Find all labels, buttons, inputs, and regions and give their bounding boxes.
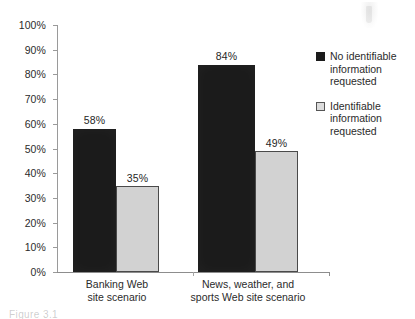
y-axis-line [57,25,58,273]
bar-group2-series2[interactable]: 49% [255,151,298,272]
figure-root: 0% 10% 20% 30% 40% 50% 60% 70% 80% 90% 1… [0,0,415,319]
y-axis-tick: 30% [53,198,57,199]
chart-legend: No identifiable information requested Id… [316,50,415,149]
y-axis-label: 20% [25,217,46,229]
y-axis-label: 70% [25,93,46,105]
y-axis-label: 90% [25,44,46,56]
legend-item-label: No identifiable information requested [330,50,397,88]
bar-group1-series1[interactable]: 58% [73,129,116,272]
legend-item-no-identifiable-information[interactable]: No identifiable information requested [316,50,415,88]
y-axis-label: 80% [25,68,46,80]
y-axis-tick: 80% [53,74,57,75]
bar-group2-series1[interactable]: 84% [198,65,255,273]
x-axis-end-tick [329,272,330,276]
y-axis-tick: 50% [53,149,57,150]
y-axis-tick: 60% [53,124,57,125]
bar-value-label: 84% [216,50,237,62]
scan-artifact-icon [361,2,378,28]
x-axis-category-label-1: Banking Web site scenario [59,278,175,303]
chart-plot-area: 0% 10% 20% 30% 40% 50% 60% 70% 80% 90% 1… [57,25,330,272]
y-axis-tick: 10% [53,247,57,248]
y-axis-label: 0% [31,266,46,278]
legend-item-identifiable-information[interactable]: Identifiable information requested [316,100,415,138]
bar-value-label: 49% [266,137,287,149]
y-axis-label: 10% [25,241,46,253]
legend-light-square-icon [316,102,325,111]
y-axis-tick: 100% [53,25,57,26]
y-axis-tick: 90% [53,50,57,51]
figure-caption: Figure 3.1 [9,309,58,319]
y-axis-label: 40% [25,167,46,179]
bar-value-label: 58% [84,114,105,126]
y-axis-label: 60% [25,118,46,130]
y-axis-tick: 70% [53,99,57,100]
y-axis-label: 100% [19,19,46,31]
y-axis-label: 30% [25,192,46,204]
bar-group1-series2[interactable]: 35% [116,186,159,273]
y-axis-tick: 0% [53,272,57,273]
bar-value-label: 35% [127,172,148,184]
y-axis-label: 50% [25,143,46,155]
y-axis-tick: 40% [53,173,57,174]
y-axis-tick: 20% [53,223,57,224]
legend-item-label: Identifiable information requested [330,100,382,138]
x-axis-group-divider-tick [193,272,194,276]
x-axis-category-label-2: News, weather, and sports Web site scena… [181,278,315,303]
legend-dark-square-icon [316,52,325,61]
